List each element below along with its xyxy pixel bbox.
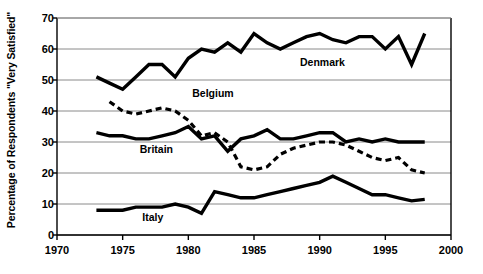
series-label-italy: Italy [142, 211, 163, 223]
chart-container: Percentage of Respondents "Very Satisfie… [0, 0, 483, 274]
plot-area [0, 0, 483, 274]
series-line-italy [96, 176, 424, 213]
series-label-belgium: Belgium [192, 87, 233, 99]
series-line-denmark [96, 34, 424, 90]
series-label-denmark: Denmark [300, 56, 345, 68]
series-label-britain: Britain [140, 143, 173, 155]
